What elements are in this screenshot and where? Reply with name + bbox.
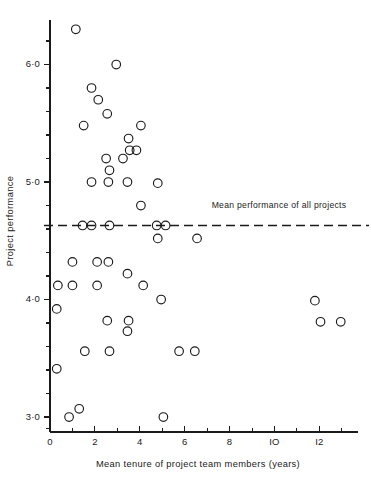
x-axis-tick-label: 0 bbox=[47, 436, 52, 447]
data-point bbox=[94, 95, 103, 104]
data-point bbox=[93, 258, 102, 267]
data-point bbox=[137, 201, 146, 210]
data-point bbox=[54, 281, 63, 290]
data-point bbox=[311, 296, 320, 305]
data-point bbox=[102, 154, 111, 163]
data-point bbox=[68, 258, 77, 267]
data-point bbox=[175, 347, 184, 356]
data-point bbox=[123, 327, 132, 336]
data-point bbox=[81, 347, 90, 356]
data-point bbox=[72, 25, 81, 34]
data-point bbox=[79, 121, 88, 130]
data-point bbox=[159, 413, 168, 422]
data-point bbox=[87, 178, 96, 187]
y-axis-tick-label: 5·0 bbox=[26, 176, 40, 187]
data-point bbox=[119, 154, 128, 163]
data-point bbox=[104, 178, 113, 187]
x-axis-tick-label: I2 bbox=[315, 436, 323, 447]
x-axis-tick-label: 2 bbox=[92, 436, 97, 447]
data-point bbox=[112, 60, 121, 69]
data-point bbox=[93, 281, 102, 290]
x-axis-tick-label: 4 bbox=[137, 436, 142, 447]
x-axis-title: Mean tenure of project team members (yea… bbox=[96, 459, 300, 469]
data-point bbox=[103, 110, 112, 119]
data-point bbox=[124, 316, 133, 325]
data-point bbox=[105, 347, 114, 356]
data-point bbox=[105, 166, 114, 175]
data-point bbox=[104, 258, 113, 267]
data-point bbox=[75, 404, 84, 413]
mean-performance-label: Mean performance of all projects bbox=[212, 200, 347, 210]
x-axis-tick-label: 8 bbox=[227, 436, 232, 447]
data-point bbox=[132, 146, 141, 155]
y-axis-tick-label: 4·0 bbox=[26, 293, 40, 304]
data-point bbox=[153, 234, 162, 243]
y-axis-title: Project performance bbox=[5, 176, 15, 266]
y-axis-tick-label: 3·0 bbox=[26, 411, 40, 422]
data-point bbox=[193, 234, 202, 243]
chart-canvas: 3·04·05·06·002468IOI2 Mean performance o… bbox=[0, 0, 371, 482]
data-point bbox=[52, 365, 61, 374]
data-point bbox=[65, 413, 74, 422]
data-point bbox=[68, 281, 77, 290]
data-point bbox=[316, 318, 325, 327]
x-axis-tick-label: IO bbox=[269, 436, 279, 447]
data-point bbox=[191, 347, 200, 356]
data-point bbox=[137, 121, 146, 130]
data-point bbox=[52, 305, 61, 314]
data-point bbox=[103, 316, 112, 325]
data-point bbox=[336, 318, 345, 327]
data-point bbox=[139, 281, 148, 290]
data-point bbox=[153, 179, 162, 188]
scatter-plot-figure: 3·04·05·06·002468IOI2 Mean performance o… bbox=[0, 0, 371, 482]
y-axis-tick-label: 6·0 bbox=[26, 58, 40, 69]
data-point bbox=[124, 134, 133, 143]
data-point bbox=[123, 178, 132, 187]
data-point bbox=[157, 295, 166, 304]
data-point bbox=[123, 269, 132, 278]
x-axis-tick-label: 6 bbox=[182, 436, 187, 447]
data-point bbox=[87, 84, 96, 93]
data-points bbox=[52, 25, 345, 421]
axis-tick-labels: 3·04·05·06·002468IOI2 bbox=[26, 58, 324, 447]
